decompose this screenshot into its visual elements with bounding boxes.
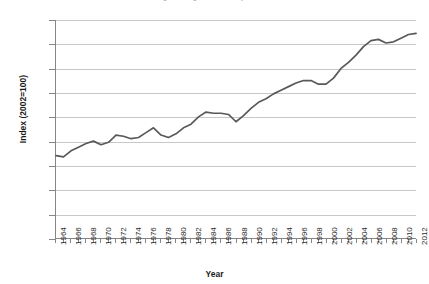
x-axis-tick-mark xyxy=(85,239,86,243)
x-axis-tick-label: 2006 xyxy=(375,227,384,245)
x-axis-tick-label: 1974 xyxy=(134,227,143,245)
x-axis-tick-label: 1968 xyxy=(89,227,98,245)
x-axis-tick-mark xyxy=(115,239,116,243)
x-axis-tick-label: 1972 xyxy=(119,227,128,245)
x-axis-tick-mark xyxy=(266,239,267,243)
x-axis-tick-label: 1980 xyxy=(179,227,188,245)
x-axis-tick-mark xyxy=(175,239,176,243)
y-axis-label: Index (2002=100) xyxy=(18,34,28,184)
x-axis-tick-mark xyxy=(236,239,237,243)
x-axis-tick-mark xyxy=(55,239,56,243)
x-axis-tick-label: 1998 xyxy=(315,227,324,245)
x-axis-tick-label: 1990 xyxy=(255,227,264,245)
series-line-chart xyxy=(56,20,416,238)
x-axis-tick-label: 1994 xyxy=(285,227,294,245)
x-axis-tick-label: 1978 xyxy=(164,227,173,245)
x-axis-tick-label: 2000 xyxy=(330,227,339,245)
plot-area xyxy=(55,20,416,239)
x-axis-tick-label: 1976 xyxy=(149,227,158,245)
x-axis-tick-label: 2012 xyxy=(420,227,429,245)
x-axis-tick-label: 1984 xyxy=(209,227,218,245)
x-axis-tick-mark xyxy=(220,239,221,243)
x-axis-tick-label: 1982 xyxy=(194,227,203,245)
x-axis-tick-mark xyxy=(190,239,191,243)
x-axis-tick-label: 1992 xyxy=(270,227,279,245)
x-axis-tick-mark xyxy=(70,239,71,243)
x-axis-tick-label: 1964 xyxy=(59,227,68,245)
x-axis-tick-label: 1986 xyxy=(224,227,233,245)
x-axis-tick-mark xyxy=(251,239,252,243)
x-axis-tick-mark xyxy=(160,239,161,243)
x-axis-tick-mark xyxy=(145,239,146,243)
x-axis-tick-mark xyxy=(401,239,402,243)
x-axis-label: Year xyxy=(0,269,429,279)
x-axis-tick-mark xyxy=(341,239,342,243)
x-axis-tick-mark xyxy=(311,239,312,243)
x-axis-tick-label: 1966 xyxy=(74,227,83,245)
x-axis-tick-mark xyxy=(296,239,297,243)
x-axis-tick-mark xyxy=(281,239,282,243)
x-axis-tick-label: 2008 xyxy=(390,227,399,245)
x-axis-tick-label: 2002 xyxy=(345,227,354,245)
x-axis-tick-label: 2004 xyxy=(360,227,369,245)
x-axis-tick-mark xyxy=(386,239,387,243)
chart-title: Figure 1. Agricultural Output Index xyxy=(0,0,429,1)
x-axis-tick-mark xyxy=(205,239,206,243)
chart-container: Figure 1. Agricultural Output Index Inde… xyxy=(0,0,429,284)
x-axis-tick-mark xyxy=(371,239,372,243)
x-axis-tick-label: 1970 xyxy=(104,227,113,245)
x-axis-tick-mark xyxy=(130,239,131,243)
x-axis-tick-mark xyxy=(356,239,357,243)
x-axis-tick-label: 1996 xyxy=(300,227,309,245)
x-axis-tick-label: 1988 xyxy=(240,227,249,245)
x-axis-tick-label: 2010 xyxy=(405,227,414,245)
series-line-index xyxy=(56,33,416,157)
x-axis-tick-mark xyxy=(416,239,417,243)
x-axis-tick-mark xyxy=(326,239,327,243)
x-axis-tick-mark xyxy=(100,239,101,243)
